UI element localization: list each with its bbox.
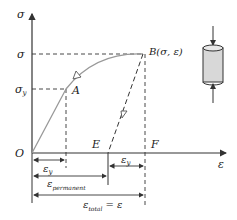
point-E-label: E bbox=[91, 138, 100, 151]
y-axis-label: σ bbox=[17, 8, 25, 21]
eps-total-label: εtotal = ε bbox=[83, 199, 122, 212]
x-axis-label: ε bbox=[218, 158, 224, 171]
unloading-line bbox=[108, 54, 143, 153]
origin-label: O bbox=[15, 147, 24, 160]
loading-curve bbox=[32, 54, 143, 153]
specimen-cylinder-icon bbox=[203, 26, 223, 103]
unloading-direction-arrow bbox=[121, 111, 127, 118]
sigma-level-label: σ bbox=[17, 48, 25, 61]
point-B-label: B(σ, ε) bbox=[148, 46, 183, 57]
eps-y-left-label: εy bbox=[43, 163, 53, 176]
eps-y-right-label: εy bbox=[121, 154, 131, 167]
stress-strain-diagram: σ σ σy O ε A B(σ, ε) E F εy εy εpermanen… bbox=[0, 0, 237, 220]
loading-direction-arrow bbox=[73, 71, 81, 79]
point-F-label: F bbox=[150, 138, 159, 151]
point-A-label: A bbox=[71, 84, 80, 97]
sigma-y-level-label: σy bbox=[15, 83, 28, 97]
eps-permanent-label: εpermanent bbox=[47, 178, 86, 192]
